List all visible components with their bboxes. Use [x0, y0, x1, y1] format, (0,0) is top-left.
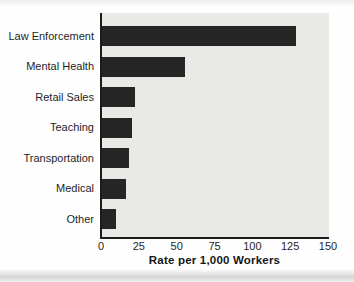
plot-area [100, 13, 329, 239]
category-label-law-enforcement: Law Enforcement [0, 30, 94, 43]
bar-retail-sales [102, 87, 135, 107]
category-label-retail-sales: Retail Sales [0, 91, 94, 104]
x-tick-label-125: 125 [270, 240, 310, 252]
bar-mental-health [102, 57, 185, 77]
bar-transportation [102, 148, 129, 168]
category-label-medical: Medical [0, 182, 94, 195]
bar-medical [102, 179, 126, 199]
page-scan-bottom-shade [0, 269, 354, 282]
bar-teaching [102, 118, 132, 138]
x-tick-label-75: 75 [195, 240, 235, 252]
category-label-other: Other [0, 213, 94, 226]
bar-other [102, 209, 116, 229]
category-label-transportation: Transportation [0, 152, 94, 165]
x-tick-label-25: 25 [119, 240, 159, 252]
category-label-mental-health: Mental Health [0, 60, 94, 73]
x-tick-label-100: 100 [232, 240, 272, 252]
bar-chart-figure: Law EnforcementMental HealthRetail Sales… [0, 0, 354, 282]
x-tick-label-150: 150 [308, 240, 348, 252]
x-tick-label-0: 0 [81, 240, 121, 252]
x-tick-label-50: 50 [157, 240, 197, 252]
bar-law-enforcement [102, 26, 296, 46]
page-scan-top-shade [0, 0, 354, 7]
x-axis-title: Rate per 1,000 Workers [100, 254, 329, 266]
category-label-teaching: Teaching [0, 121, 94, 134]
